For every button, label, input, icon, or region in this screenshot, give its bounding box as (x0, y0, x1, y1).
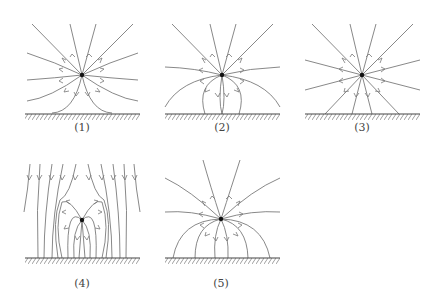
charge-dot (220, 73, 224, 77)
panel-4-label: (4) (74, 277, 90, 290)
charge-dot (360, 73, 364, 77)
field-lines (27, 24, 138, 113)
ground-hatch (25, 114, 140, 120)
field-lines-figure (0, 0, 439, 306)
panel-5-diagram (165, 160, 280, 264)
field-lines (165, 160, 280, 258)
charge-dot (80, 218, 84, 222)
panel-1-diagram (25, 24, 140, 120)
panel-2-label: (2) (214, 121, 230, 134)
panel-2-diagram (165, 24, 280, 120)
field-lines (165, 24, 280, 114)
charge-dot (219, 217, 223, 221)
ground-hatch (25, 258, 140, 264)
panel-3-diagram (305, 24, 420, 120)
ground-hatch (305, 114, 420, 120)
panel-1-label: (1) (74, 121, 90, 134)
charge-dot (80, 73, 84, 77)
panel-3-label: (3) (354, 121, 370, 134)
panel-5-label: (5) (213, 277, 229, 290)
panel-4-diagram (24, 164, 140, 264)
field-lines (24, 164, 140, 258)
ground-hatch (165, 114, 280, 120)
ground-hatch (165, 258, 280, 264)
field-lines (305, 24, 420, 114)
